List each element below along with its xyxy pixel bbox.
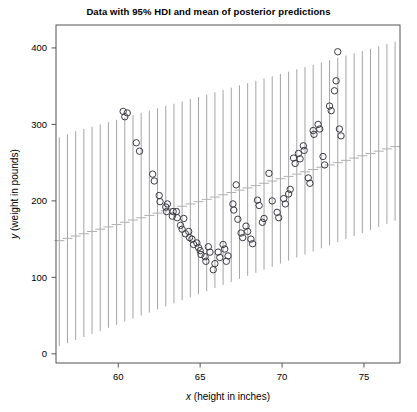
data-point-marker xyxy=(301,147,307,153)
y-axis-label-unit: (weight in pounds) xyxy=(9,149,20,234)
data-point-marker xyxy=(149,171,155,177)
data-point-marker xyxy=(266,170,272,176)
x-tick-label: 75 xyxy=(359,371,370,382)
y-tick-label: 100 xyxy=(31,272,47,283)
data-point-marker xyxy=(233,182,239,188)
data-point-marker xyxy=(203,258,209,264)
y-axis-label: y (weight in pounds) xyxy=(9,149,20,240)
x-axis-label: x (height in inches) xyxy=(185,391,270,402)
data-point-marker xyxy=(333,78,339,84)
data-point-marker xyxy=(336,126,342,132)
data-point-marker xyxy=(177,222,183,228)
data-points-group xyxy=(120,49,344,273)
data-point-marker xyxy=(320,153,326,159)
data-point-marker xyxy=(259,219,265,225)
y-tick-label: 300 xyxy=(31,119,47,130)
data-point-marker xyxy=(311,131,317,137)
data-point-marker xyxy=(156,192,162,198)
data-point-marker xyxy=(335,49,341,55)
data-point-marker xyxy=(331,88,337,94)
y-tick-label: 200 xyxy=(31,195,47,206)
plot-frame xyxy=(56,25,400,363)
data-point-marker xyxy=(338,133,344,139)
y-tick-label: 0 xyxy=(42,348,47,359)
scatter-plot-canvas: 60657075 0100200300400 x (height in inch… xyxy=(0,0,417,412)
data-point-marker xyxy=(151,178,157,184)
y-axis-ticks: 0100200300400 xyxy=(31,42,56,359)
y-tick-label: 400 xyxy=(31,42,47,53)
hdi-interval-group xyxy=(59,42,395,346)
data-point-marker xyxy=(133,140,139,146)
posterior-mean-group xyxy=(54,147,400,241)
x-axis-label-unit: (height in inches) xyxy=(191,391,270,402)
data-point-marker xyxy=(235,216,241,222)
data-point-marker xyxy=(230,201,236,207)
data-point-marker xyxy=(181,215,187,221)
data-point-marker xyxy=(210,267,216,273)
data-point-marker xyxy=(136,148,142,154)
chart-figure: Data with 95% HDI and mean of posterior … xyxy=(0,0,417,412)
data-point-marker xyxy=(163,208,169,214)
plot-frame-rect xyxy=(56,25,400,363)
x-tick-label: 60 xyxy=(113,371,124,382)
x-axis-ticks: 60657075 xyxy=(113,363,369,382)
x-tick-label: 70 xyxy=(277,371,288,382)
x-tick-label: 65 xyxy=(195,371,206,382)
